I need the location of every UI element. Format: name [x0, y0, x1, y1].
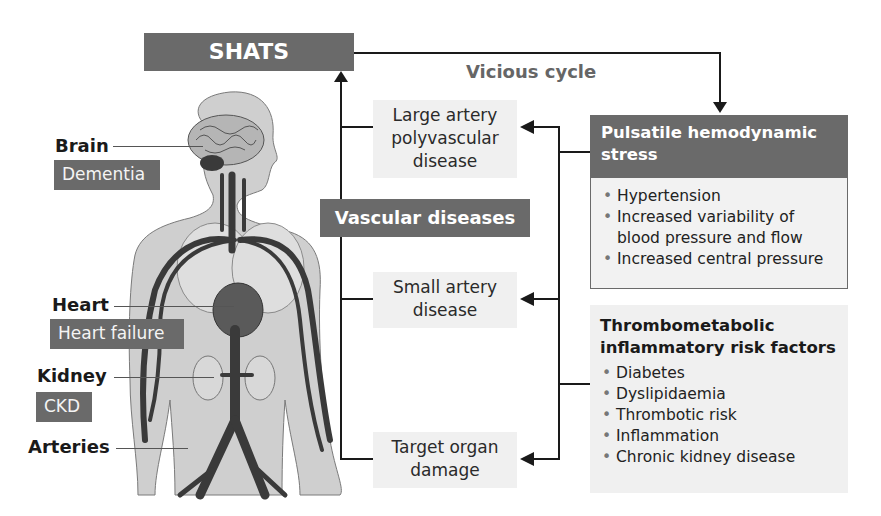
vascular-diseases-box: Vascular diseases — [320, 199, 530, 237]
thrombometabolic-title-line-2: inflammatory risk factors — [600, 337, 840, 359]
pulsatile-stress-title: Pulsatile hemodynamic stress — [591, 116, 847, 178]
organ-label-heart: Heart — [52, 294, 109, 315]
target-organ-line-1: Target organ — [373, 436, 517, 459]
arrow-left-icon — [520, 452, 534, 466]
arrow-line-target-organ — [534, 458, 560, 460]
disease-tag-heart-failure: Heart failure — [50, 319, 184, 349]
list-item: Dyslipidaemia — [600, 384, 840, 405]
thrombometabolic-risk-list: Diabetes Dyslipidaemia Thrombotic risk I… — [600, 363, 840, 468]
list-item: Inflammation — [600, 426, 840, 447]
cycle-down-line — [719, 52, 721, 104]
list-item: Thrombotic risk — [600, 405, 840, 426]
large-artery-line-2: polyvascular — [373, 127, 517, 150]
arteries-leader-line — [116, 448, 188, 449]
thrombometabolic-risk-box: Thrombometabolic inflammatory risk facto… — [590, 305, 848, 493]
disease-tag-ckd: CKD — [36, 392, 92, 422]
small-artery-line-1: Small artery — [373, 276, 517, 299]
brain-leader-line — [113, 146, 203, 147]
branch-line-target-organ — [340, 458, 374, 460]
cerebellum-icon — [200, 155, 224, 171]
organ-label-brain: Brain — [55, 135, 109, 156]
shats-title-box: SHATS — [144, 33, 354, 71]
list-item: Diabetes — [600, 363, 840, 384]
small-artery-line-2: disease — [373, 299, 517, 322]
list-item: Increased central pressure — [601, 249, 839, 270]
organ-label-arteries: Arteries — [28, 436, 110, 457]
arrow-down-icon — [713, 102, 727, 113]
arrow-up-icon — [334, 71, 348, 82]
pulsatile-risk-list: Hypertension Increased variability of bl… — [591, 178, 847, 270]
list-item: Increased variability of blood pressure … — [601, 207, 839, 249]
arrow-line-small-artery — [534, 298, 560, 300]
arrow-left-icon — [520, 120, 534, 134]
cycle-top-line — [354, 52, 720, 54]
arrow-left-icon — [520, 292, 534, 306]
branch-line-small-artery — [340, 298, 374, 300]
disease-tag-dementia: Dementia — [54, 160, 160, 190]
right-spine-line — [558, 126, 560, 460]
vicious-cycle-label: Vicious cycle — [466, 61, 596, 82]
small-artery-disease-box: Small artery disease — [373, 272, 517, 328]
target-organ-line-2: damage — [373, 459, 517, 482]
thrombometabolic-connector-line — [558, 383, 590, 385]
brain-icon — [188, 115, 264, 165]
list-item: Chronic kidney disease — [600, 447, 840, 468]
pulsatile-connector-line — [558, 151, 590, 153]
arrow-line-large-artery — [534, 126, 560, 128]
target-organ-damage-box: Target organ damage — [373, 432, 517, 488]
pulsatile-title-line-1: Pulsatile hemodynamic — [601, 122, 837, 144]
list-item: Hypertension — [601, 186, 839, 207]
kidney-right-icon — [245, 356, 275, 400]
kidney-left-icon — [193, 356, 223, 400]
thrombometabolic-title-line-1: Thrombometabolic — [600, 315, 840, 337]
large-artery-disease-box: Large artery polyvascular disease — [373, 100, 517, 178]
large-artery-line-1: Large artery — [373, 104, 517, 127]
thrombometabolic-title: Thrombometabolic inflammatory risk facto… — [600, 315, 840, 359]
pulsatile-title-line-2: stress — [601, 144, 837, 166]
heart-leader-line — [114, 306, 234, 307]
branch-line-large-artery — [340, 126, 374, 128]
left-spine-line — [340, 80, 342, 460]
kidney-leader-line — [114, 377, 214, 378]
large-artery-line-3: disease — [373, 150, 517, 173]
organ-label-kidney: Kidney — [37, 365, 107, 386]
pulsatile-stress-box: Pulsatile hemodynamic stress Hypertensio… — [590, 115, 848, 289]
